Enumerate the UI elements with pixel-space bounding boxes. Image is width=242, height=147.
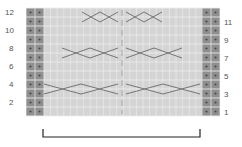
garter-dot-icon — [29, 38, 31, 40]
garter-dot-icon — [205, 74, 207, 76]
garter-dot-icon — [214, 56, 216, 58]
garter-dot-icon — [29, 92, 31, 94]
garter-dot-icon — [38, 11, 40, 13]
garter-dot-icon — [205, 83, 207, 85]
garter-dot-icon — [214, 29, 216, 31]
garter-dot-icon — [38, 110, 40, 112]
row-number-label: 7 — [224, 54, 228, 63]
garter-dot-icon — [38, 74, 40, 76]
garter-dot-icon — [214, 74, 216, 76]
garter-dot-icon — [205, 29, 207, 31]
garter-dot-icon — [214, 110, 216, 112]
garter-dot-icon — [38, 29, 40, 31]
row-number-label: 11 — [224, 18, 232, 27]
row-number-label: 5 — [224, 72, 228, 81]
row-number-label: 4 — [9, 80, 13, 89]
garter-dot-icon — [205, 65, 207, 67]
garter-dot-icon — [214, 65, 216, 67]
row-number-label: 12 — [5, 8, 14, 17]
garter-dot-icon — [214, 11, 216, 13]
garter-dot-icon — [205, 11, 207, 13]
garter-dot-icon — [214, 20, 216, 22]
garter-dot-icon — [29, 83, 31, 85]
garter-dot-icon — [38, 47, 40, 49]
garter-dot-icon — [214, 92, 216, 94]
row-number-label: 3 — [224, 90, 228, 99]
garter-dot-icon — [205, 110, 207, 112]
garter-dot-icon — [38, 65, 40, 67]
garter-dot-icon — [38, 56, 40, 58]
garter-dot-icon — [205, 38, 207, 40]
garter-dot-icon — [29, 65, 31, 67]
garter-dot-icon — [214, 83, 216, 85]
row-number-label: 2 — [9, 98, 13, 107]
row-number-label: 10 — [5, 26, 14, 35]
row-number-label: 9 — [224, 36, 228, 45]
garter-dot-icon — [29, 101, 31, 103]
chart-grid — [0, 0, 242, 147]
garter-dot-icon — [38, 101, 40, 103]
garter-dot-icon — [38, 38, 40, 40]
garter-dot-icon — [205, 56, 207, 58]
garter-dot-icon — [29, 20, 31, 22]
garter-dot-icon — [29, 11, 31, 13]
garter-dot-icon — [38, 20, 40, 22]
garter-dot-icon — [29, 74, 31, 76]
garter-dot-icon — [38, 83, 40, 85]
garter-dot-icon — [214, 47, 216, 49]
garter-dot-icon — [38, 92, 40, 94]
garter-dot-icon — [29, 110, 31, 112]
garter-dot-icon — [214, 38, 216, 40]
garter-dot-icon — [29, 56, 31, 58]
garter-dot-icon — [205, 47, 207, 49]
garter-dot-icon — [29, 47, 31, 49]
repeat-bracket — [43, 129, 200, 137]
garter-dot-icon — [205, 20, 207, 22]
row-number-label: 1 — [224, 108, 228, 117]
garter-dot-icon — [29, 29, 31, 31]
garter-dot-icon — [205, 92, 207, 94]
garter-dot-icon — [205, 101, 207, 103]
row-number-label: 8 — [9, 44, 13, 53]
garter-dot-icon — [214, 101, 216, 103]
row-number-label: 6 — [9, 62, 13, 71]
